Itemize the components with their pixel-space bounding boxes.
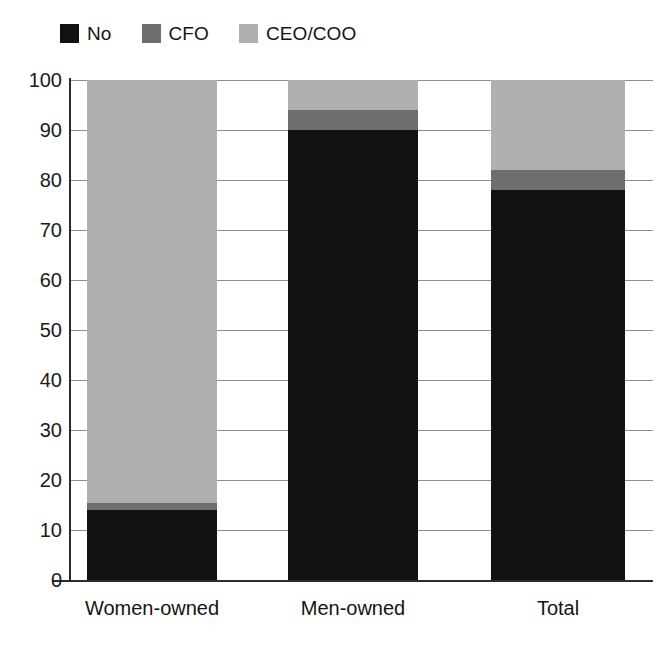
x-axis-label-total: Total — [451, 596, 665, 620]
y-axis-tick-label: 90 — [10, 120, 62, 140]
bar-total — [491, 80, 625, 580]
x-axis-label-women-owned: Women-owned — [47, 596, 257, 620]
bar-segment-ceo-coo — [288, 80, 418, 110]
stacked-bar-chart: No CFO CEO/COO 0102030405060708090100 Wo… — [0, 0, 666, 646]
y-axis-tick-label: 70 — [10, 220, 62, 240]
legend-label-no: No — [87, 24, 112, 43]
x-axis-label-men-owned: Men-owned — [248, 596, 458, 620]
bar-segment-no — [491, 190, 625, 580]
legend-swatch-ceo-coo-icon — [239, 24, 258, 43]
y-axis-tick-label: 80 — [10, 170, 62, 190]
legend-swatch-no-icon — [60, 24, 79, 43]
legend-item-ceo-coo: CEO/COO — [239, 24, 356, 43]
bar-men-owned — [288, 80, 418, 580]
y-axis-line — [69, 78, 71, 582]
legend-label-ceo-coo: CEO/COO — [266, 24, 356, 43]
y-axis-tick-label: 10 — [10, 520, 62, 540]
legend-label-cfo: CFO — [169, 24, 209, 43]
bar-segment-cfo — [87, 503, 217, 511]
bar-women-owned — [87, 80, 217, 580]
y-axis-tick-label: 0 — [10, 570, 62, 590]
y-axis-tick-label: 40 — [10, 370, 62, 390]
bar-segment-ceo-coo — [491, 80, 625, 170]
bar-segment-no — [288, 130, 418, 580]
y-axis-tick-label: 30 — [10, 420, 62, 440]
legend-swatch-cfo-icon — [142, 24, 161, 43]
y-axis-tick-labels: 0102030405060708090100 — [0, 0, 62, 646]
chart-legend: No CFO CEO/COO — [60, 20, 356, 46]
legend-item-no: No — [60, 24, 112, 43]
x-axis-line — [52, 580, 653, 582]
bar-segment-cfo — [491, 170, 625, 190]
legend-item-cfo: CFO — [142, 24, 209, 43]
y-axis-tick-label: 60 — [10, 270, 62, 290]
y-axis-tick-label: 100 — [10, 70, 62, 90]
bar-segment-cfo — [288, 110, 418, 130]
y-axis-tick-label: 20 — [10, 470, 62, 490]
bar-segment-ceo-coo — [87, 80, 217, 503]
y-axis-tick-label: 50 — [10, 320, 62, 340]
bar-segment-no — [87, 510, 217, 580]
